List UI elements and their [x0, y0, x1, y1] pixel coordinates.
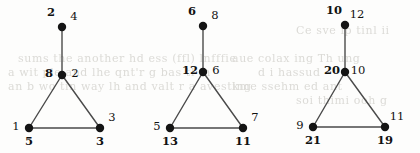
- graph-node[interactable]: [199, 68, 207, 76]
- graph-edge: [62, 75, 100, 128]
- graph-edge: [170, 72, 203, 128]
- graph-edge: [345, 72, 385, 127]
- graph-node[interactable]: [166, 124, 174, 132]
- graph-edge: [313, 72, 345, 127]
- graph-edge: [203, 72, 243, 128]
- graph-node[interactable]: [239, 124, 247, 132]
- graph-edge: [29, 75, 62, 128]
- graph-canvas: [0, 0, 420, 153]
- graph-node[interactable]: [58, 23, 66, 31]
- graph-node[interactable]: [58, 71, 66, 79]
- graph-figure: sums the another hd ess (ffl) lnfffiea w…: [0, 0, 420, 153]
- graph-node[interactable]: [381, 123, 389, 131]
- graph-node[interactable]: [96, 124, 104, 132]
- graph-node[interactable]: [309, 123, 317, 131]
- graph-node[interactable]: [25, 124, 33, 132]
- graph-node[interactable]: [199, 22, 207, 30]
- graph-drawing-layer: [0, 0, 420, 153]
- graph-node[interactable]: [341, 21, 349, 29]
- edges-group: [29, 25, 385, 128]
- graph-node[interactable]: [341, 68, 349, 76]
